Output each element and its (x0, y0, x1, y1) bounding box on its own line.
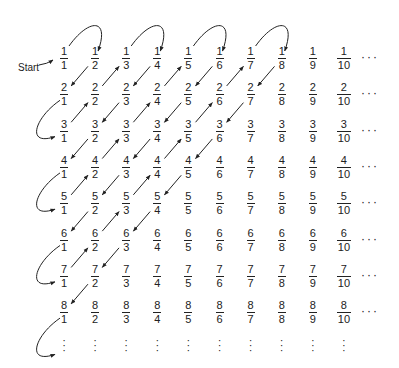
denominator: 2 (84, 133, 106, 144)
denominator: 10 (333, 60, 355, 71)
fraction-4-10: 410 (333, 155, 355, 180)
denominator: 9 (302, 60, 324, 71)
numerator: 2 (209, 82, 231, 93)
numerator: 6 (146, 228, 168, 239)
fraction-5-9: 59 (302, 191, 324, 216)
numerator: 8 (146, 300, 168, 311)
denominator: 3 (115, 60, 137, 71)
numerator: 8 (53, 300, 75, 311)
denominator: 1 (53, 60, 75, 71)
numerator: 5 (209, 191, 231, 202)
denominator: 8 (271, 205, 293, 216)
denominator: 4 (146, 169, 168, 180)
numerator: 4 (146, 155, 168, 166)
numerator: 7 (209, 264, 231, 275)
numerator: 3 (115, 119, 137, 130)
column-ellipsis: ··· (59, 338, 69, 353)
numerator: 2 (53, 82, 75, 93)
denominator: 3 (115, 242, 137, 253)
fraction-6-4: 64 (146, 228, 168, 253)
denominator: 5 (177, 278, 199, 289)
numerator: 4 (240, 155, 262, 166)
numerator: 4 (333, 155, 355, 166)
denominator: 5 (177, 169, 199, 180)
denominator: 2 (84, 242, 106, 253)
denominator: 7 (240, 205, 262, 216)
fraction-5-4: 54 (146, 191, 168, 216)
denominator: 5 (177, 96, 199, 107)
numerator: 1 (271, 46, 293, 57)
fraction-4-4: 44 (146, 155, 168, 180)
fraction-4-9: 49 (302, 155, 324, 180)
denominator: 1 (53, 314, 75, 325)
column-ellipsis: ··· (90, 338, 100, 353)
fraction-7-6: 76 (209, 264, 231, 289)
numerator: 4 (177, 155, 199, 166)
fraction-4-5: 45 (177, 155, 199, 180)
denominator: 3 (115, 314, 137, 325)
numerator: 6 (333, 228, 355, 239)
numerator: 1 (53, 46, 75, 57)
denominator: 7 (240, 242, 262, 253)
denominator: 4 (146, 205, 168, 216)
denominator: 6 (209, 278, 231, 289)
numerator: 5 (271, 191, 293, 202)
denominator: 6 (209, 60, 231, 71)
denominator: 3 (115, 205, 137, 216)
fraction-5-3: 53 (115, 191, 137, 216)
denominator: 1 (53, 169, 75, 180)
denominator: 5 (177, 133, 199, 144)
fraction-5-1: 51 (53, 191, 75, 216)
numerator: 1 (302, 46, 324, 57)
fraction-2-4: 24 (146, 82, 168, 107)
denominator: 8 (271, 242, 293, 253)
row-ellipsis: ··· (361, 123, 379, 137)
fraction-8-8: 88 (271, 300, 293, 325)
fraction-1-5: 15 (177, 46, 199, 71)
denominator: 4 (146, 278, 168, 289)
fraction-1-10: 110 (333, 46, 355, 71)
column-ellipsis: ··· (339, 338, 349, 353)
fraction-6-7: 67 (240, 228, 262, 253)
denominator: 6 (209, 169, 231, 180)
fraction-1-3: 13 (115, 46, 137, 71)
denominator: 1 (53, 96, 75, 107)
fraction-3-2: 32 (84, 119, 106, 144)
denominator: 10 (333, 205, 355, 216)
numerator: 2 (177, 82, 199, 93)
denominator: 5 (177, 314, 199, 325)
fraction-3-10: 310 (333, 119, 355, 144)
fraction-8-9: 89 (302, 300, 324, 325)
fraction-7-5: 75 (177, 264, 199, 289)
denominator: 5 (177, 205, 199, 216)
fraction-3-9: 39 (302, 119, 324, 144)
numerator: 3 (53, 119, 75, 130)
denominator: 2 (84, 205, 106, 216)
row-ellipsis: ··· (361, 268, 379, 282)
fraction-8-7: 87 (240, 300, 262, 325)
denominator: 6 (209, 133, 231, 144)
start-arrow (39, 60, 53, 65)
fraction-6-9: 69 (302, 228, 324, 253)
numerator: 5 (84, 191, 106, 202)
row-ellipsis: ··· (361, 159, 379, 173)
fraction-2-1: 21 (53, 82, 75, 107)
fraction-3-3: 33 (115, 119, 137, 144)
fraction-6-5: 65 (177, 228, 199, 253)
fraction-5-6: 56 (209, 191, 231, 216)
column-ellipsis: ··· (121, 338, 131, 353)
fraction-1-9: 19 (302, 46, 324, 71)
numerator: 3 (333, 119, 355, 130)
row-ellipsis: ··· (361, 86, 379, 100)
numerator: 3 (302, 119, 324, 130)
fraction-4-1: 41 (53, 155, 75, 180)
denominator: 3 (115, 169, 137, 180)
denominator: 7 (240, 60, 262, 71)
numerator: 7 (177, 264, 199, 275)
denominator: 4 (146, 60, 168, 71)
fraction-1-4: 14 (146, 46, 168, 71)
fraction-5-7: 57 (240, 191, 262, 216)
denominator: 8 (271, 60, 293, 71)
column-ellipsis: ··· (183, 338, 193, 353)
numerator: 3 (84, 119, 106, 130)
